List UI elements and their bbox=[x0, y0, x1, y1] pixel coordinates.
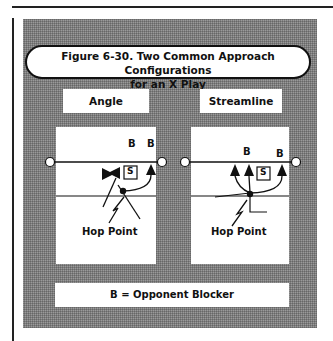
setter-label: S bbox=[127, 166, 133, 176]
antenna-icon bbox=[181, 158, 190, 167]
arrowhead-icon bbox=[277, 164, 287, 176]
arrowhead-icon bbox=[230, 164, 240, 176]
blocker-arrow-icon bbox=[108, 167, 120, 179]
blocker-label: B bbox=[276, 148, 284, 159]
antenna-icon bbox=[46, 158, 55, 167]
arrowhead-icon bbox=[244, 164, 254, 176]
legend: B = Opponent Blocker bbox=[55, 283, 289, 307]
antenna-icon bbox=[158, 158, 167, 167]
hop-point-label: Hop Point bbox=[211, 226, 266, 237]
blocker-label: B bbox=[147, 138, 155, 149]
jump-zigzag-icon bbox=[109, 197, 124, 223]
jump-zigzag-icon bbox=[232, 200, 247, 226]
blocker-label: B bbox=[128, 138, 136, 149]
setter-label: S bbox=[260, 167, 266, 177]
blocker-label: B bbox=[243, 146, 251, 157]
antenna-icon bbox=[292, 158, 301, 167]
hop-point-label: Hop Point bbox=[82, 226, 137, 237]
arrowhead-icon bbox=[146, 164, 156, 175]
